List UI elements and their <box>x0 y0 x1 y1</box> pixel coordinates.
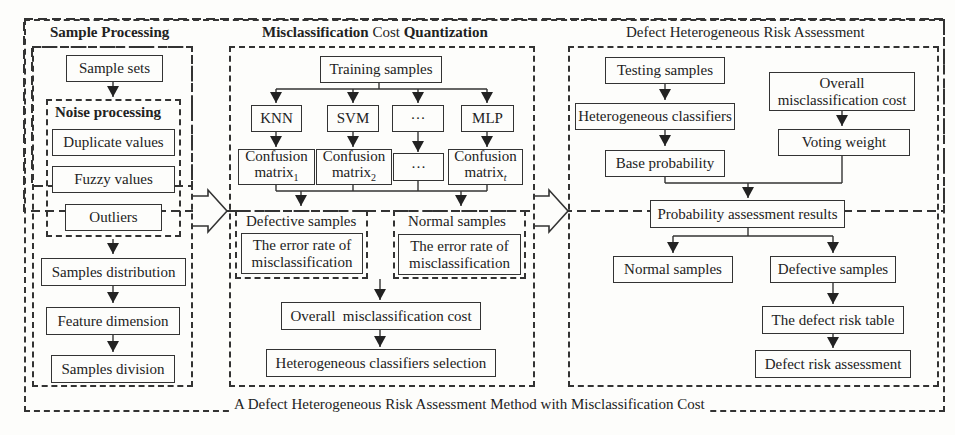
matrix-label: matrixt <box>465 164 507 186</box>
confusion-matrix-ellipsis-box: ··· <box>393 153 444 181</box>
overall-cost-line2: misclassification cost <box>778 92 907 109</box>
defective-samples-box: Defective samples <box>770 256 896 283</box>
error-rate-line1: The error rate of <box>410 238 509 255</box>
outliers-box: Outliers <box>65 204 162 231</box>
base-probability-box: Base probability <box>605 150 725 177</box>
feature-dimension-box: Feature dimension <box>46 307 180 335</box>
defective-error-rate-box: The error rate of misclassification <box>241 233 363 274</box>
sample-sets-box: Sample sets <box>66 55 163 82</box>
classifier-ellipsis-box: ··· <box>392 105 444 132</box>
error-rate-line2: misclassification <box>252 254 353 271</box>
matrix-label: matrix1 <box>254 164 298 186</box>
classifier-knn-box: KNN <box>251 105 302 132</box>
error-rate-line2: misclassification <box>409 255 510 272</box>
normal-error-rate-box: The error rate of misclassification <box>398 234 521 275</box>
normal-samples-label: Normal samples <box>408 213 506 230</box>
normal-samples-box: Normal samples <box>613 256 733 283</box>
overall-cost-line1: Overall <box>820 75 865 92</box>
testing-samples-box: Testing samples <box>605 57 725 84</box>
misclassification-title: Misclassification Cost Quantization <box>262 24 488 41</box>
overall-cost-box: Overall misclassification cost <box>769 72 915 111</box>
heterogeneous-classifiers-box: Heterogeneous classifiers <box>575 103 735 130</box>
title-part2: Cost <box>372 24 400 40</box>
error-rate-line1: The error rate of <box>253 237 352 254</box>
fuzzy-values-box: Fuzzy values <box>52 166 175 193</box>
confusion-matrix-t-box: Confusion matrixt <box>448 149 523 185</box>
classifier-selection-box: Heterogeneous classifiers selection <box>266 349 496 377</box>
defective-samples-label: Defective samples <box>246 213 356 230</box>
confusion-label: Confusion <box>245 148 308 164</box>
probability-results-box: Probability assessment results <box>650 200 845 228</box>
classifier-mlp-box: MLP <box>461 105 514 132</box>
voting-weight-box: Voting weight <box>778 129 910 156</box>
samples-division-box: Samples division <box>51 355 175 383</box>
method-caption: A Defect Heterogeneous Risk Assessment M… <box>232 396 707 413</box>
title-part3: Quantization <box>404 24 488 40</box>
classifier-svm-box: SVM <box>327 105 379 132</box>
matrix-label: matrix2 <box>332 164 376 186</box>
overall-misclassification-cost-box: Overall misclassification cost <box>281 302 481 330</box>
title-part1: Misclassification <box>262 24 369 40</box>
noise-processing-title: Noise processing <box>55 104 161 121</box>
confusion-label: Confusion <box>454 148 517 164</box>
duplicate-values-box: Duplicate values <box>52 129 175 156</box>
training-samples-box: Training samples <box>320 56 442 83</box>
confusion-label: Confusion <box>323 148 386 164</box>
risk-assessment-title: Defect Heterogeneous Risk Assessment <box>626 24 865 41</box>
confusion-matrix-2-box: Confusion matrix2 <box>316 149 392 185</box>
confusion-matrix-1-box: Confusion matrix1 <box>238 149 315 185</box>
samples-distribution-box: Samples distribution <box>41 258 186 286</box>
defect-risk-table-box: The defect risk table <box>762 306 904 334</box>
defect-risk-assessment-box: Defect risk assessment <box>755 350 911 378</box>
sample-processing-title: Sample Processing <box>50 24 169 41</box>
